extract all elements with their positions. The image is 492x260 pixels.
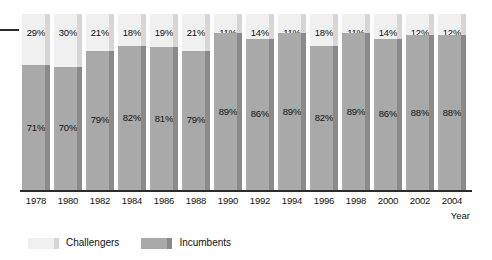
segment-label-challengers: 21%	[182, 28, 210, 38]
segment-label-incumbents: 86%	[246, 110, 274, 120]
bar-stack: 30%70%	[54, 14, 82, 190]
x-label-1992: 1992	[246, 194, 274, 207]
bar-1998[interactable]: 11%89%	[342, 14, 370, 190]
segment-challengers[interactable]: 12%	[438, 14, 466, 35]
x-axis-tick-labels: 1978198019821984198619881990199219941996…	[22, 194, 470, 208]
segment-challengers[interactable]: 18%	[118, 14, 146, 46]
stacked-bar-chart: 29%71%30%70%21%79%18%82%19%81%21%79%11%8…	[0, 0, 492, 260]
segment-incumbents[interactable]: 79%	[182, 51, 210, 190]
bar-1994[interactable]: 11%89%	[278, 14, 306, 190]
x-axis-line	[20, 190, 472, 192]
segment-incumbents[interactable]: 89%	[214, 33, 242, 190]
bar-1992[interactable]: 14%86%	[246, 14, 274, 190]
segment-challengers[interactable]: 18%	[310, 14, 338, 46]
bar-stack: 11%89%	[342, 14, 370, 190]
bar-2000[interactable]: 14%86%	[374, 14, 402, 190]
segment-label-incumbents: 88%	[406, 108, 434, 118]
x-label-1998: 1998	[342, 194, 370, 207]
segment-label-incumbents: 70%	[54, 124, 82, 134]
bar-1980[interactable]: 30%70%	[54, 14, 82, 190]
bar-1982[interactable]: 21%79%	[86, 14, 114, 190]
bar-1984[interactable]: 18%82%	[118, 14, 146, 190]
plot-area: 29%71%30%70%21%79%18%82%19%81%21%79%11%8…	[22, 14, 470, 190]
legend-item-challengers[interactable]: Challengers	[28, 237, 119, 249]
bar-stack: 21%79%	[86, 14, 114, 190]
bar-stack: 14%86%	[246, 14, 274, 190]
x-label-1982: 1982	[86, 194, 114, 207]
segment-challengers[interactable]: 30%	[54, 14, 82, 67]
segment-label-incumbents: 79%	[86, 116, 114, 126]
bar-stack: 12%88%	[438, 14, 466, 190]
segment-label-challengers: 21%	[86, 28, 114, 38]
chart-legend: Challengers Incumbents	[28, 236, 253, 250]
segment-challengers[interactable]: 11%	[214, 14, 242, 33]
segment-label-challengers: 14%	[374, 28, 402, 38]
segment-label-incumbents: 71%	[22, 123, 50, 133]
segment-challengers[interactable]: 19%	[150, 14, 178, 47]
segment-label-incumbents: 89%	[278, 107, 306, 117]
segment-label-incumbents: 82%	[118, 113, 146, 123]
segment-challengers[interactable]: 11%	[342, 14, 370, 33]
segment-label-incumbents: 79%	[182, 116, 210, 126]
segment-challengers[interactable]: 14%	[374, 14, 402, 39]
segment-label-challengers: 18%	[310, 28, 338, 38]
segment-challengers[interactable]: 21%	[182, 14, 210, 51]
segment-incumbents[interactable]: 81%	[150, 47, 178, 190]
bar-1978[interactable]: 29%71%	[22, 14, 50, 190]
bar-1986[interactable]: 19%81%	[150, 14, 178, 190]
x-axis-title: Year	[0, 210, 470, 222]
bar-2004[interactable]: 12%88%	[438, 14, 466, 190]
segment-label-incumbents: 89%	[342, 107, 370, 117]
bar-stack: 12%88%	[406, 14, 434, 190]
segment-challengers[interactable]: 11%	[278, 14, 306, 33]
bar-1988[interactable]: 21%79%	[182, 14, 210, 190]
segment-label-challengers: 19%	[150, 28, 178, 38]
bar-2002[interactable]: 12%88%	[406, 14, 434, 190]
x-label-2002: 2002	[406, 194, 434, 207]
segment-label-challengers: 30%	[54, 28, 82, 38]
segment-incumbents[interactable]: 82%	[118, 46, 146, 190]
bar-stack: 21%79%	[182, 14, 210, 190]
segment-label-incumbents: 86%	[374, 110, 402, 120]
bar-stack: 18%82%	[118, 14, 146, 190]
bar-stack: 14%86%	[374, 14, 402, 190]
segment-incumbents[interactable]: 88%	[438, 35, 466, 190]
segment-incumbents[interactable]: 89%	[342, 33, 370, 190]
segment-incumbents[interactable]: 86%	[374, 39, 402, 190]
segment-label-incumbents: 82%	[310, 113, 338, 123]
legend-swatch-incumbents-icon	[141, 238, 172, 249]
x-label-2004: 2004	[438, 194, 466, 207]
segment-challengers[interactable]: 21%	[86, 14, 114, 51]
x-label-1984: 1984	[118, 194, 146, 207]
legend-label-incumbents: Incumbents	[179, 237, 231, 249]
bar-1996[interactable]: 18%82%	[310, 14, 338, 190]
segment-label-challengers: 29%	[22, 28, 50, 38]
legend-item-incumbents[interactable]: Incumbents	[141, 237, 231, 249]
segment-challengers[interactable]: 29%	[22, 14, 50, 65]
legend-swatch-challengers-icon	[28, 238, 59, 249]
bar-stack: 19%81%	[150, 14, 178, 190]
segment-challengers[interactable]: 12%	[406, 14, 434, 35]
x-label-2000: 2000	[374, 194, 402, 207]
y-axis-tick	[0, 29, 19, 31]
x-label-1986: 1986	[150, 194, 178, 207]
segment-incumbents[interactable]: 70%	[54, 67, 82, 190]
x-label-1990: 1990	[214, 194, 242, 207]
segment-incumbents[interactable]: 82%	[310, 46, 338, 190]
x-label-1994: 1994	[278, 194, 306, 207]
segment-challengers[interactable]: 14%	[246, 14, 274, 39]
segment-incumbents[interactable]: 71%	[22, 65, 50, 190]
legend-label-challengers: Challengers	[66, 237, 119, 249]
x-label-1978: 1978	[22, 194, 50, 207]
bar-1990[interactable]: 11%89%	[214, 14, 242, 190]
segment-label-incumbents: 81%	[150, 114, 178, 124]
segment-incumbents[interactable]: 86%	[246, 39, 274, 190]
bar-stack: 29%71%	[22, 14, 50, 190]
segment-incumbents[interactable]: 79%	[86, 51, 114, 190]
bar-stack: 11%89%	[214, 14, 242, 190]
segment-incumbents[interactable]: 88%	[406, 35, 434, 190]
segment-incumbents[interactable]: 89%	[278, 33, 306, 190]
bar-stack: 18%82%	[310, 14, 338, 190]
segment-label-incumbents: 89%	[214, 107, 242, 117]
x-label-1988: 1988	[182, 194, 210, 207]
